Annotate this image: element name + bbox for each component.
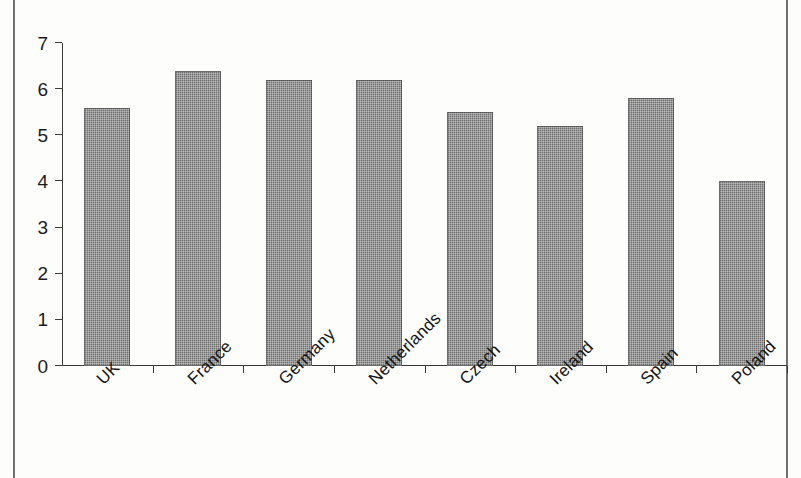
bar	[266, 80, 312, 366]
bar	[628, 98, 674, 366]
y-axis-tick-label: 5	[37, 125, 48, 144]
page-frame-rule-left	[13, 0, 15, 478]
y-axis-tick: 7	[55, 42, 62, 43]
y-axis-tick-label: 3	[37, 218, 48, 237]
x-axis-tick	[243, 366, 244, 373]
x-axis-tick	[515, 366, 516, 373]
y-axis-tick: 1	[55, 319, 62, 320]
bar	[175, 71, 221, 366]
y-axis-tick: 6	[55, 88, 62, 89]
bar	[537, 126, 583, 366]
y-axis-tick-label: 7	[37, 33, 48, 52]
y-axis-tick-label: 2	[37, 264, 48, 283]
y-axis-tick: 2	[55, 273, 62, 274]
x-axis-tick	[425, 366, 426, 373]
x-axis-tick	[696, 366, 697, 373]
x-axis-tick	[334, 366, 335, 373]
bar	[719, 181, 765, 366]
bar	[447, 112, 493, 366]
y-axis-line	[62, 43, 63, 366]
bar	[356, 80, 402, 366]
x-axis-tick	[153, 366, 154, 373]
y-axis-tick: 0	[55, 365, 62, 366]
y-axis-tick-label: 0	[37, 356, 48, 375]
y-axis-tick: 4	[55, 180, 62, 181]
y-axis-tick-label: 1	[37, 310, 48, 329]
bar	[84, 108, 130, 366]
x-axis-tick	[606, 366, 607, 373]
y-axis-tick-label: 4	[37, 171, 48, 190]
chart-figure: 01234567 UKFranceGermanyNetherlandsCzech…	[0, 0, 801, 478]
x-axis-tick	[787, 366, 788, 373]
y-axis-tick: 5	[55, 134, 62, 135]
plot-area: 01234567 UKFranceGermanyNetherlandsCzech…	[62, 43, 787, 366]
y-axis-tick: 3	[55, 227, 62, 228]
y-axis-tick-label: 6	[37, 79, 48, 98]
